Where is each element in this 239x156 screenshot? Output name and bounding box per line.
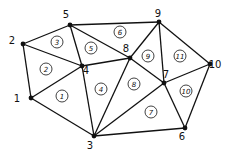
element-label: 8 xyxy=(128,78,140,90)
mesh-node xyxy=(21,42,26,47)
node-label: 3 xyxy=(87,140,93,151)
node-label: 2 xyxy=(9,35,15,46)
mesh-edge xyxy=(130,22,159,58)
mesh-node xyxy=(128,56,133,61)
mesh-node xyxy=(29,96,34,101)
mesh-node xyxy=(157,20,162,25)
mesh-edge xyxy=(82,66,94,136)
node-label: 8 xyxy=(123,43,129,54)
mesh-edge xyxy=(159,22,210,64)
node-label: 7 xyxy=(163,69,169,80)
element-label: 2 xyxy=(40,63,52,75)
element-number: 10 xyxy=(182,88,191,96)
mesh-node xyxy=(183,126,188,131)
mesh-canvas: 123456789101112345678910 xyxy=(0,0,239,156)
element-number: 2 xyxy=(44,66,49,74)
element-number: 7 xyxy=(149,109,154,117)
element-number: 6 xyxy=(118,29,123,37)
mesh-edge xyxy=(82,58,130,66)
element-number: 4 xyxy=(99,86,103,94)
element-number: 9 xyxy=(146,53,151,61)
element-number: 8 xyxy=(132,81,137,89)
element-label: 1 xyxy=(56,90,68,102)
node-label: 9 xyxy=(155,8,161,19)
mesh-edge xyxy=(94,128,185,136)
element-label: 3 xyxy=(51,36,63,48)
element-number: 3 xyxy=(55,39,59,47)
mesh-edge xyxy=(94,83,164,136)
node-label: 4 xyxy=(83,65,89,76)
mesh-edge xyxy=(23,44,31,98)
node-label: 1 xyxy=(14,93,20,104)
mesh-edge xyxy=(31,98,94,136)
element-label: 7 xyxy=(145,106,157,118)
element-number: 11 xyxy=(176,53,185,61)
mesh-edge xyxy=(23,44,82,66)
element-number: 1 xyxy=(60,93,64,101)
element-number: 5 xyxy=(89,45,94,53)
mesh-edge xyxy=(94,58,130,136)
element-label: 9 xyxy=(142,50,154,62)
element-label: 10 xyxy=(180,85,192,97)
mesh-node xyxy=(162,81,167,86)
element-label: 5 xyxy=(85,42,97,54)
element-label: 4 xyxy=(95,83,107,95)
mesh-edge xyxy=(70,22,159,25)
mesh-diagram: 123456789101112345678910 xyxy=(0,0,239,156)
node-label: 10 xyxy=(209,59,222,70)
element-label: 11 xyxy=(174,50,186,62)
mesh-node xyxy=(92,134,97,139)
mesh-node xyxy=(68,23,73,28)
node-label: 5 xyxy=(63,9,69,20)
element-label: 6 xyxy=(114,26,126,38)
node-label: 6 xyxy=(179,131,185,142)
